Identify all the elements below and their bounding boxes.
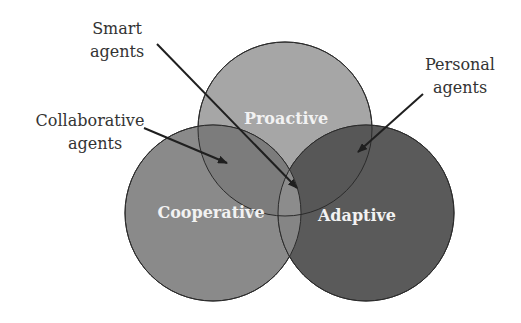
callout-collaborative-line2: agents: [68, 134, 122, 153]
venn-diagram: Proactive Cooperative Adaptive Smart age…: [0, 0, 521, 323]
callout-smart-line2: agents: [90, 42, 144, 61]
label-cooperative: Cooperative: [157, 203, 264, 222]
callout-collaborative-line1: Collaborative: [36, 111, 145, 130]
callout-smart-line1: Smart: [92, 19, 142, 38]
callout-personal-line2: agents: [433, 78, 487, 97]
label-adaptive: Adaptive: [317, 206, 396, 225]
callout-personal-line1: Personal: [425, 55, 495, 74]
label-proactive: Proactive: [244, 109, 328, 128]
